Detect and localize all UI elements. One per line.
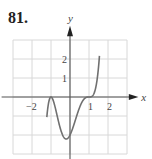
x-axis-label: x: [140, 91, 146, 103]
x-tick-label: 2: [107, 101, 112, 112]
x-tick-label: −2: [26, 101, 37, 112]
x-axis-arrow-icon: [129, 94, 139, 100]
x-tick-label: 1: [88, 101, 93, 112]
y-axis-arrow-icon: [67, 26, 73, 37]
axes: xy: [2, 12, 147, 159]
function-graph: xy −21212: [0, 0, 152, 159]
y-tick-label: 2: [62, 54, 67, 65]
y-axis-label: y: [67, 12, 73, 24]
y-tick-label: 1: [62, 73, 67, 84]
